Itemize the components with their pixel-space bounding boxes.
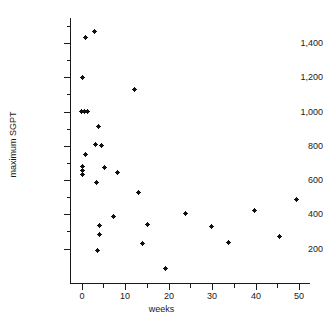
y-axis-title: maximum SGPT bbox=[9, 85, 18, 205]
data-point bbox=[80, 172, 85, 177]
marker-square bbox=[98, 233, 101, 236]
x-tick-minor bbox=[277, 284, 278, 288]
marker-square bbox=[103, 166, 106, 169]
x-tick-minor bbox=[190, 284, 191, 288]
y-tick-minor bbox=[67, 26, 71, 27]
x-tick-minor bbox=[234, 284, 235, 288]
marker-square bbox=[295, 198, 298, 201]
y-tick-minor bbox=[67, 60, 71, 61]
marker-square bbox=[98, 224, 101, 227]
marker-square bbox=[278, 235, 281, 238]
data-point bbox=[163, 266, 168, 271]
data-point bbox=[145, 222, 150, 227]
marker-square bbox=[86, 110, 89, 113]
marker-square bbox=[253, 209, 256, 212]
y-tick-major bbox=[64, 180, 71, 181]
data-point bbox=[140, 241, 145, 246]
y-tick-minor bbox=[67, 94, 71, 95]
data-point bbox=[83, 152, 88, 157]
marker-square bbox=[81, 76, 84, 79]
y-tick-label: 200 bbox=[261, 245, 323, 254]
data-point bbox=[94, 180, 99, 185]
y-tick-label: 600 bbox=[261, 176, 323, 185]
data-point bbox=[226, 240, 231, 245]
data-point bbox=[97, 232, 102, 237]
data-point bbox=[111, 214, 116, 219]
data-point bbox=[80, 75, 85, 80]
marker-square bbox=[141, 242, 144, 245]
y-tick-major bbox=[64, 146, 71, 147]
y-tick-major bbox=[64, 214, 71, 215]
marker-square bbox=[133, 88, 136, 91]
marker-square bbox=[81, 173, 84, 176]
x-axis-title: weeks bbox=[0, 305, 323, 314]
marker-square bbox=[94, 143, 97, 146]
data-point bbox=[96, 124, 101, 129]
y-tick-major bbox=[64, 112, 71, 113]
data-point bbox=[277, 234, 282, 239]
y-tick-minor bbox=[67, 231, 71, 232]
marker-square bbox=[210, 225, 213, 228]
x-tick-major bbox=[256, 284, 257, 290]
x-tick-major bbox=[125, 284, 126, 290]
y-tick-label: 1,000 bbox=[261, 108, 323, 117]
data-point bbox=[102, 165, 107, 170]
y-tick-major bbox=[64, 77, 71, 78]
x-tick-major bbox=[212, 284, 213, 290]
marker-square bbox=[184, 212, 187, 215]
marker-square bbox=[116, 171, 119, 174]
y-tick-label: 1,400 bbox=[261, 39, 323, 48]
data-point bbox=[95, 248, 100, 253]
y-tick-label: 400 bbox=[261, 210, 323, 219]
x-tick-label: 50 bbox=[284, 292, 314, 301]
y-tick-major bbox=[64, 43, 71, 44]
marker-square bbox=[95, 181, 98, 184]
data-point bbox=[85, 109, 90, 114]
data-point bbox=[97, 223, 102, 228]
y-tick-minor bbox=[67, 163, 71, 164]
marker-square bbox=[84, 153, 87, 156]
marker-square bbox=[137, 191, 140, 194]
marker-square bbox=[112, 215, 115, 218]
marker-square bbox=[164, 267, 167, 270]
x-tick-major bbox=[299, 284, 300, 290]
data-point bbox=[115, 170, 120, 175]
marker-square bbox=[100, 144, 103, 147]
marker-square bbox=[93, 30, 96, 33]
y-tick-minor bbox=[67, 129, 71, 130]
x-tick-label: 40 bbox=[241, 292, 271, 301]
scatter-chart: 2004006008001,0001,2001,400 01020304050 … bbox=[0, 0, 323, 321]
data-point bbox=[83, 35, 88, 40]
x-tick-major bbox=[169, 284, 170, 290]
marker-square bbox=[84, 36, 87, 39]
y-tick-label: 1,200 bbox=[261, 73, 323, 82]
data-point bbox=[294, 197, 299, 202]
y-tick-label: 800 bbox=[261, 142, 323, 151]
data-point bbox=[183, 211, 188, 216]
marker-square bbox=[146, 223, 149, 226]
y-axis-line bbox=[70, 18, 71, 283]
marker-square bbox=[227, 241, 230, 244]
data-point bbox=[136, 190, 141, 195]
x-tick-minor bbox=[147, 284, 148, 288]
data-point bbox=[209, 224, 214, 229]
y-tick-major bbox=[64, 249, 71, 250]
x-tick-label: 0 bbox=[67, 292, 97, 301]
data-point bbox=[132, 87, 137, 92]
x-tick-label: 30 bbox=[197, 292, 227, 301]
marker-square bbox=[97, 125, 100, 128]
x-tick-minor bbox=[103, 284, 104, 288]
x-tick-label: 20 bbox=[154, 292, 184, 301]
x-tick-major bbox=[82, 284, 83, 290]
y-tick-minor bbox=[67, 197, 71, 198]
marker-square bbox=[96, 249, 99, 252]
data-point bbox=[92, 29, 97, 34]
data-point bbox=[252, 208, 257, 213]
data-point bbox=[99, 143, 104, 148]
x-tick-label: 10 bbox=[110, 292, 140, 301]
